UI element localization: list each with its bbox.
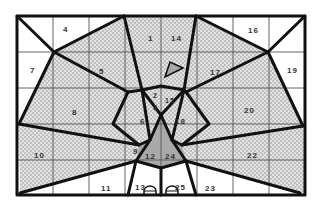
label-piece-2: 2: [153, 92, 158, 99]
label-piece-5: 5: [99, 67, 104, 76]
label-piece-17: 17: [210, 68, 221, 77]
label-piece-25: 25: [175, 183, 186, 192]
label-piece-24: 24: [165, 152, 176, 161]
label-piece-8: 8: [72, 108, 77, 117]
label-piece-12: 12: [145, 152, 156, 161]
label-piece-16: 16: [248, 26, 259, 35]
label-piece-7: 7: [30, 66, 35, 75]
label-piece-18: 18: [175, 117, 186, 126]
label-piece-4: 4: [63, 25, 68, 34]
peacock-puzzle-diagram: 1 2 3 4 5 6 7 8 9 10 11 12 13 14 15 16 1…: [0, 0, 323, 212]
label-piece-22: 22: [247, 151, 258, 160]
label-piece-11: 11: [101, 184, 111, 193]
label-piece-19: 19: [287, 66, 298, 75]
label-piece-1: 1: [148, 34, 153, 43]
label-piece-15: 15: [165, 97, 175, 104]
label-piece-6: 6: [140, 117, 145, 126]
label-piece-23: 23: [205, 184, 216, 193]
label-piece-9: 9: [133, 147, 138, 156]
label-piece-20: 20: [244, 106, 255, 115]
label-piece-13: 13: [135, 183, 146, 192]
label-piece-10: 10: [34, 151, 45, 160]
label-piece-14: 14: [171, 34, 182, 43]
label-piece-3: 3: [153, 104, 158, 111]
